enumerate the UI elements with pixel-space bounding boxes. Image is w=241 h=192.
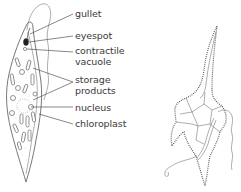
label-nucleus-text: nucleus — [75, 102, 111, 113]
dinoflagellate-drawing — [165, 26, 233, 186]
label-contractile-line2: vacuole — [75, 56, 124, 67]
label-contractile-line1: contractile — [75, 45, 124, 56]
label-nucleus: nucleus — [75, 102, 111, 113]
label-eyespot: eyespot — [75, 30, 112, 41]
label-chloroplast: chloroplast — [75, 118, 126, 129]
label-storage-line2: products — [75, 85, 116, 96]
label-gullet: gullet — [75, 8, 101, 19]
dinoflagellate-flagellum-right — [218, 110, 233, 170]
diagram-canvas — [0, 0, 241, 192]
euglena-drawing — [7, 4, 73, 182]
storage-products-structures — [10, 58, 38, 151]
dinoflagellate-flagellum-left — [165, 156, 197, 176]
flagellum — [27, 4, 51, 100]
label-chloroplast-text: chloroplast — [75, 118, 126, 129]
leader-lines — [27, 14, 73, 124]
label-gullet-text: gullet — [75, 8, 101, 19]
theca-plates — [176, 92, 222, 160]
eyespot-structure — [24, 39, 29, 46]
label-storage-line1: storage — [75, 74, 116, 85]
label-storage-products: storage products — [75, 74, 116, 96]
euglena-pellicle — [26, 32, 37, 174]
nucleus-structure — [17, 99, 34, 113]
label-eyespot-text: eyespot — [75, 30, 112, 41]
euglena-cell-outline — [7, 22, 42, 182]
contractile-vacuole-structure — [23, 47, 26, 50]
label-contractile-vacuole: contractile vacuole — [75, 45, 124, 67]
